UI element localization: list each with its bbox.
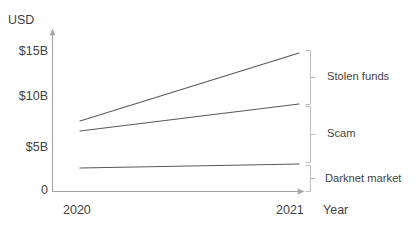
y-axis-title: USD	[8, 14, 34, 27]
bracket-scam	[306, 107, 316, 163]
y-axis-arrowhead	[50, 29, 56, 36]
series-line-scam-top	[80, 104, 299, 131]
x-axis-tick-2020: 2020	[63, 204, 91, 217]
series-line-darknet-market-top	[80, 164, 299, 168]
bracket-stolen-funds	[306, 51, 316, 105]
x-axis-title: Year	[323, 204, 348, 217]
y-axis-tick-zero: 0	[2, 184, 48, 197]
y-axis-tick-15b: $15B	[2, 45, 48, 58]
series-label-scam: Scam	[327, 128, 356, 139]
bracket-darknet-market	[306, 166, 316, 192]
x-axis-tick-2021: 2021	[276, 204, 304, 217]
series-label-stolen-funds: Stolen funds	[327, 71, 389, 82]
chart-plot-area	[0, 0, 418, 237]
y-axis-tick-10b: $10B	[2, 90, 48, 103]
x-axis-arrowhead	[298, 189, 305, 195]
chart-container: USD $15B $10B $5B 0 2020 2021 Year Stole…	[0, 0, 418, 237]
series-label-darknet-market: Darknet market	[325, 173, 401, 184]
y-axis-tick-5b: $5B	[2, 141, 48, 154]
series-line-stolen-funds-top	[80, 53, 299, 121]
